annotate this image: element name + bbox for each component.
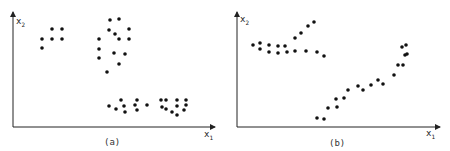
data-point bbox=[170, 110, 174, 114]
y-axis-label-a: x2 bbox=[16, 16, 25, 28]
data-point bbox=[346, 88, 350, 92]
data-point bbox=[123, 110, 127, 114]
data-point bbox=[404, 43, 408, 47]
data-point bbox=[258, 41, 262, 45]
data-point bbox=[258, 47, 262, 51]
data-point bbox=[117, 37, 121, 41]
data-point bbox=[133, 103, 137, 107]
data-point bbox=[50, 37, 54, 41]
data-point bbox=[160, 105, 164, 109]
data-point bbox=[159, 98, 163, 102]
data-point bbox=[97, 37, 101, 41]
x-axis-label-a: x1 bbox=[204, 129, 213, 141]
data-point bbox=[401, 63, 405, 67]
data-point bbox=[108, 18, 112, 22]
data-point bbox=[285, 50, 289, 54]
data-point bbox=[276, 51, 280, 55]
data-point bbox=[184, 98, 188, 102]
x-axis-label-b: x1 bbox=[426, 128, 435, 140]
data-point bbox=[107, 28, 111, 32]
data-point bbox=[107, 104, 111, 108]
data-point bbox=[326, 106, 330, 110]
data-point bbox=[145, 103, 149, 107]
data-point bbox=[315, 116, 319, 120]
data-point bbox=[322, 54, 326, 58]
data-point bbox=[164, 98, 168, 102]
data-points-a bbox=[40, 17, 188, 117]
data-point bbox=[122, 104, 126, 108]
data-point bbox=[50, 27, 54, 31]
data-point bbox=[135, 98, 139, 102]
data-point bbox=[40, 37, 44, 41]
data-point bbox=[184, 103, 188, 107]
data-point bbox=[119, 98, 123, 102]
data-point bbox=[392, 73, 396, 77]
caption-a: (a) bbox=[104, 137, 120, 147]
data-point bbox=[396, 63, 400, 67]
data-point bbox=[376, 78, 380, 82]
data-point bbox=[312, 20, 316, 24]
data-point bbox=[117, 62, 121, 66]
data-point bbox=[182, 108, 186, 112]
y-axis-label-b: x2 bbox=[240, 14, 249, 26]
data-point bbox=[135, 108, 139, 112]
data-point bbox=[97, 47, 101, 51]
data-point bbox=[251, 43, 255, 47]
data-point bbox=[267, 43, 271, 47]
data-point bbox=[112, 51, 116, 55]
data-point bbox=[293, 49, 297, 53]
data-point bbox=[381, 82, 385, 86]
data-point bbox=[315, 50, 319, 54]
data-point bbox=[283, 44, 287, 48]
data-point bbox=[334, 97, 338, 101]
data-point bbox=[113, 32, 117, 36]
data-point bbox=[267, 50, 271, 54]
data-point bbox=[105, 70, 109, 74]
data-point bbox=[342, 96, 346, 100]
panel-a: x2 x1 (a) bbox=[13, 12, 215, 147]
data-point bbox=[114, 107, 118, 111]
data-point bbox=[97, 56, 101, 60]
data-point bbox=[175, 104, 179, 108]
panel-b: x2 x1 (b) bbox=[237, 12, 440, 148]
data-points-b bbox=[251, 20, 409, 121]
data-point bbox=[117, 17, 121, 21]
data-point bbox=[175, 98, 179, 102]
data-point bbox=[164, 107, 168, 111]
data-point bbox=[127, 27, 131, 31]
data-point bbox=[60, 27, 64, 31]
data-point bbox=[400, 45, 404, 49]
data-point bbox=[405, 52, 409, 56]
data-point bbox=[335, 105, 339, 109]
data-point bbox=[123, 52, 127, 56]
data-point bbox=[369, 83, 373, 87]
data-point bbox=[127, 37, 131, 41]
data-point bbox=[304, 49, 308, 53]
data-point bbox=[40, 46, 44, 50]
caption-b: (b) bbox=[329, 138, 345, 148]
data-point bbox=[175, 113, 179, 117]
data-point bbox=[276, 44, 280, 48]
data-point bbox=[299, 31, 303, 35]
data-point bbox=[293, 36, 297, 40]
data-point bbox=[322, 117, 326, 121]
data-point bbox=[306, 24, 310, 28]
data-point bbox=[60, 37, 64, 41]
data-point bbox=[361, 88, 365, 92]
scatter-figure: x2 x1 (a) x2 x1 (b) bbox=[0, 0, 450, 151]
data-point bbox=[356, 84, 360, 88]
